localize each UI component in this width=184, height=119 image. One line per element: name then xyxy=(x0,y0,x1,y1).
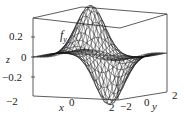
y-axis-label: y xyxy=(152,101,157,112)
z-axis-label: z xyxy=(6,54,10,65)
function-label: fy xyxy=(60,30,67,45)
function-subscript: y xyxy=(63,35,67,44)
z-tick-0: 0 xyxy=(21,52,27,63)
y-tick-max: 2 xyxy=(172,90,178,101)
z-tick-neg-0.2: −0.2 xyxy=(2,72,22,83)
x-tick-zero: 0 xyxy=(69,97,75,108)
x-tick-max: 2 xyxy=(109,102,115,113)
z-tick-0.2: 0.2 xyxy=(9,31,23,42)
x-tick-min: −2 xyxy=(6,96,18,107)
x-axis-label: x xyxy=(59,102,64,113)
y-tick-min: −2 xyxy=(120,101,132,112)
y-tick-zero: 0 xyxy=(144,97,150,108)
